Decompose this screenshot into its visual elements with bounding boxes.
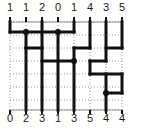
path-node-0 bbox=[23, 29, 29, 35]
grid-path-canvas bbox=[0, 0, 142, 128]
path-node-3 bbox=[103, 90, 109, 96]
grid-path-figure: 11201435 02313544 bbox=[0, 0, 142, 128]
bottom-axis-label-6: 4 bbox=[99, 112, 113, 125]
bottom-axis-label-4: 3 bbox=[67, 112, 81, 125]
bottom-axis-label-3: 1 bbox=[51, 112, 65, 125]
path-segments bbox=[10, 22, 122, 110]
bottom-axis-label-2: 3 bbox=[35, 112, 49, 125]
path-node-1 bbox=[55, 29, 61, 35]
bottom-axis-label-1: 2 bbox=[19, 112, 33, 125]
bottom-axis-label-7: 4 bbox=[115, 112, 129, 125]
bottom-axis-label-0: 0 bbox=[3, 112, 17, 125]
bottom-axis-label-5: 5 bbox=[83, 112, 97, 125]
bottom-axis-label-row: 02313544 bbox=[0, 112, 142, 126]
path-node-2 bbox=[71, 58, 77, 64]
